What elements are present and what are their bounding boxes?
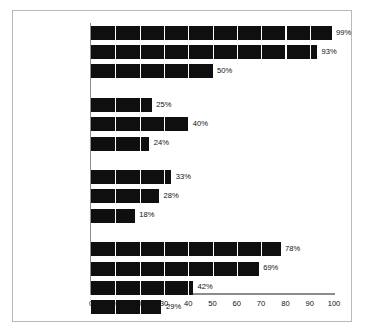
bar-value-label: 40% — [193, 120, 208, 129]
x-tick-label: 50 — [202, 299, 224, 308]
bar-value-label: 93% — [321, 48, 336, 57]
x-tick-label: 20 — [129, 299, 151, 308]
bar-fill — [91, 189, 159, 203]
bar-track — [91, 170, 334, 184]
bar-track — [91, 262, 334, 276]
chart-figure: A television99%VCR/DVD player93%Video ga… — [12, 10, 352, 322]
bar-fill — [91, 98, 152, 112]
x-tick-label: 80 — [274, 299, 296, 308]
bar-fill — [91, 117, 188, 131]
bar-fill — [91, 281, 193, 295]
x-tick-label: 30 — [153, 299, 175, 308]
x-tick-label: 10 — [104, 299, 126, 308]
bar-value-label: 99% — [336, 29, 351, 38]
x-tick-label: 0 — [80, 299, 102, 308]
chart-plot-area: A television99%VCR/DVD player93%Video ga… — [13, 11, 353, 323]
x-tick-label: 40 — [177, 299, 199, 308]
bar-value-label: 69% — [263, 264, 278, 273]
x-tick-label: 100 — [323, 299, 345, 308]
bar-value-label: 50% — [217, 67, 232, 76]
bar-fill — [91, 64, 213, 78]
bar-track — [91, 137, 334, 151]
bar-track — [91, 45, 334, 59]
bar-track — [91, 209, 334, 223]
x-tick-label: 70 — [250, 299, 272, 308]
bar-value-label: 24% — [154, 139, 169, 148]
bar-value-label: 33% — [176, 173, 191, 182]
bar-fill — [91, 45, 317, 59]
bar-fill — [91, 262, 259, 276]
x-tick-label: 90 — [299, 299, 321, 308]
bar-value-label: 42% — [198, 283, 213, 292]
bar-value-label: 28% — [164, 192, 179, 201]
bar-fill — [91, 209, 135, 223]
bar-track — [91, 64, 334, 78]
bar-fill — [91, 26, 332, 40]
bar-value-label: 18% — [139, 211, 154, 220]
bar-track — [91, 26, 334, 40]
bar-fill — [91, 242, 281, 256]
bar-fill — [91, 170, 171, 184]
bar-value-label: 25% — [156, 101, 171, 110]
bar-fill — [91, 137, 149, 151]
bar-track — [91, 98, 334, 112]
bar-value-label: 78% — [285, 245, 300, 254]
x-tick-label: 60 — [226, 299, 248, 308]
bar-track — [91, 189, 334, 203]
bar-track — [91, 117, 334, 131]
